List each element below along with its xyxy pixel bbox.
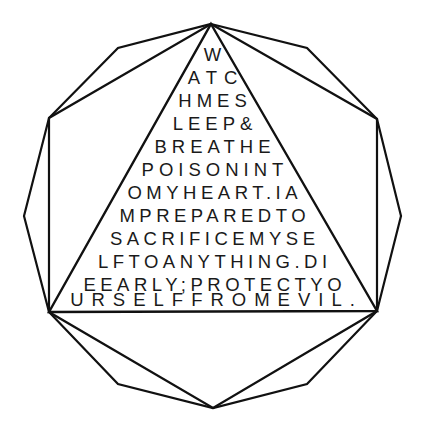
- text-line-3: HMES: [0, 91, 425, 111]
- text-line-1: W: [0, 45, 425, 65]
- text-line-8: MPREPAREDTO: [0, 206, 425, 226]
- text-line-10: LFTOANYTHING.DI: [0, 252, 425, 272]
- text-line-12: URSELFFROMEVIL.: [0, 290, 425, 310]
- text-line-9: SACRIFICEMYSE: [0, 229, 425, 249]
- text-line-4: LEEP&: [0, 114, 425, 134]
- text-line-5: BREATHE: [0, 137, 425, 157]
- text-line-7: OMYHEART.IA: [0, 183, 425, 203]
- text-line-2: ATC: [0, 68, 425, 88]
- geometric-text-figure: W ATC HMES LEEP& BREATHE POISONINT OMYHE…: [0, 0, 425, 434]
- text-line-6: POISONINT: [0, 160, 425, 180]
